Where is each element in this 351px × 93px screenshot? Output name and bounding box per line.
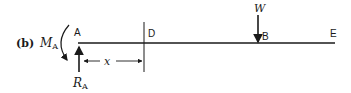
reaction-label: RA [72, 76, 88, 91]
dimension-label: x [104, 55, 111, 68]
panel-label: (b) [16, 37, 34, 50]
beam-free-body-diagram: (b) MA A RA x D W B E [0, 0, 351, 93]
moment-label: MA [39, 36, 58, 51]
reaction-subscript: A [81, 82, 88, 91]
point-label-e: E [330, 28, 337, 39]
point-label-b: B [262, 31, 269, 42]
moment-arrow-icon [61, 25, 69, 60]
point-label-d: D [148, 28, 155, 39]
moment-subscript: A [51, 42, 58, 51]
point-label-a: A [74, 27, 81, 38]
load-label: W [254, 2, 267, 15]
